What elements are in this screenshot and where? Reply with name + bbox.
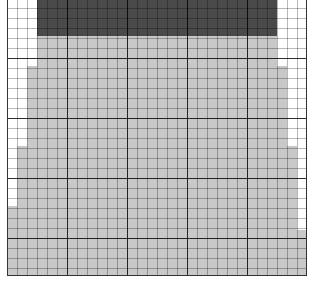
grid-border [7, 0, 307, 276]
